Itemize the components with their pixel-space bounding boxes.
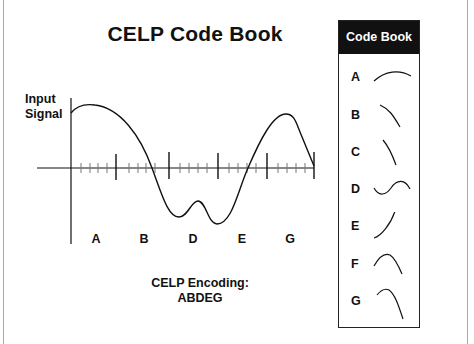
encoding-label: CELP Encoding: — [130, 276, 270, 291]
codebook-letter: C — [351, 145, 360, 159]
encoding-value: ABDEG — [130, 291, 270, 306]
segment-label-e: E — [232, 232, 252, 246]
rising-curve-icon — [371, 212, 417, 242]
codebook-letter: A — [351, 70, 360, 84]
codebook-letter: D — [351, 182, 360, 196]
codebook-entry-e: E — [339, 212, 419, 242]
codebook-letter: G — [351, 294, 361, 308]
segment-label-b: B — [134, 232, 154, 246]
codebook-panel: Code Book A B C D E F G — [338, 20, 420, 328]
codebook-entry-f: F — [339, 250, 419, 280]
codebook-entry-c: C — [339, 138, 419, 168]
codebook-entry-g: G — [339, 287, 419, 317]
codebook-header: Code Book — [339, 21, 419, 54]
encoding-caption: CELP Encoding: ABDEG — [130, 276, 270, 306]
wave-curve-icon — [371, 175, 417, 205]
codebook-letter: F — [351, 257, 359, 271]
segment-label-g: G — [280, 232, 300, 246]
codebook-entry-d: D — [339, 175, 419, 205]
segment-label-a: A — [86, 232, 106, 246]
peak-drop-curve-icon — [371, 287, 417, 327]
peak-curve-icon — [371, 250, 417, 280]
codebook-entry-b: B — [339, 101, 419, 131]
codebook-entry-a: A — [339, 63, 419, 93]
codebook-letter: E — [351, 219, 359, 233]
steep-falling-curve-icon — [371, 138, 417, 168]
falling-curve-icon — [371, 101, 417, 131]
codebook-letter: B — [351, 108, 360, 122]
arch-curve-icon — [371, 63, 417, 93]
segment-label-d: D — [183, 232, 203, 246]
